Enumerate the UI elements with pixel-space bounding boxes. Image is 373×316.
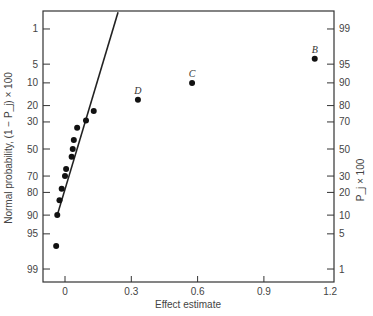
point-label: B <box>312 44 318 55</box>
y-axis-right-title: P_j × 100 <box>355 158 366 201</box>
y-right-tick-label: 1 <box>339 264 345 275</box>
x-tick-label: 0.3 <box>124 286 138 297</box>
data-point <box>189 80 195 86</box>
normal-probability-plot: 00.30.60.91.2 15102030507080909599 99959… <box>0 0 373 316</box>
y-right-tick-label: 90 <box>339 77 351 88</box>
y-left-tick-label: 10 <box>27 77 39 88</box>
y-left-tick-label: 80 <box>27 187 39 198</box>
data-point <box>91 108 97 114</box>
y-left-tick-label: 50 <box>27 144 39 155</box>
plot-frame <box>43 11 334 282</box>
y-axis-left-title: Normal probability, (1 − P_j) × 100 <box>3 72 14 224</box>
data-point <box>63 166 69 172</box>
y-left-tick-label: 99 <box>27 264 39 275</box>
y-right-tick-label: 20 <box>339 187 351 198</box>
data-points: DCB <box>53 44 318 249</box>
x-axis-ticks: 00.30.60.91.2 <box>62 276 337 297</box>
y-right-tick-label: 10 <box>339 210 351 221</box>
y-right-tick-label: 80 <box>339 100 351 111</box>
x-axis-title: Effect estimate <box>155 299 221 310</box>
y-left-tick-label: 20 <box>27 100 39 111</box>
data-point <box>54 212 60 218</box>
data-point <box>74 125 80 131</box>
y-left-tick-label: 70 <box>27 171 39 182</box>
point-label: C <box>189 68 196 79</box>
y-left-tick-label: 5 <box>32 59 38 70</box>
x-tick-label: 0.6 <box>191 286 205 297</box>
y-right-tick-label: 95 <box>339 59 351 70</box>
x-tick-label: 0 <box>62 286 68 297</box>
data-point <box>71 137 77 143</box>
y-left-tick-label: 90 <box>27 210 39 221</box>
y-right-tick-label: 99 <box>339 23 351 34</box>
data-point <box>312 56 318 62</box>
data-point <box>59 186 65 192</box>
y-right-tick-label: 5 <box>339 228 345 239</box>
data-point <box>69 154 75 160</box>
data-point <box>62 173 68 179</box>
point-label: D <box>133 85 142 96</box>
y-right-tick-label: 50 <box>339 144 351 155</box>
y-right-tick-label: 70 <box>339 116 351 127</box>
data-point <box>56 197 62 203</box>
y-axis-left-ticks: 15102030507080909599 <box>27 23 50 274</box>
data-point <box>135 97 141 103</box>
y-left-tick-label: 95 <box>27 228 39 239</box>
y-left-tick-label: 30 <box>27 116 39 127</box>
data-point <box>70 146 76 152</box>
data-point <box>53 243 59 249</box>
y-right-tick-label: 30 <box>339 171 351 182</box>
data-point <box>83 117 89 123</box>
x-tick-label: 0.9 <box>257 286 271 297</box>
y-axis-right-ticks: 99959080705030201051 <box>327 23 351 274</box>
reference-line <box>57 12 118 215</box>
y-left-tick-label: 1 <box>32 23 38 34</box>
x-tick-label: 1.2 <box>323 286 337 297</box>
